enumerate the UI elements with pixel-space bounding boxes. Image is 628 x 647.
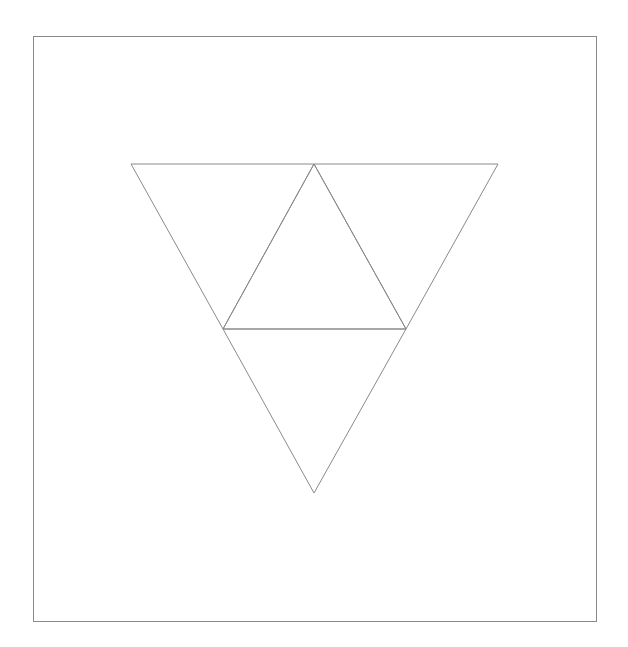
diagram-canvas: [0, 0, 628, 647]
triangle-diagram: [0, 0, 628, 647]
